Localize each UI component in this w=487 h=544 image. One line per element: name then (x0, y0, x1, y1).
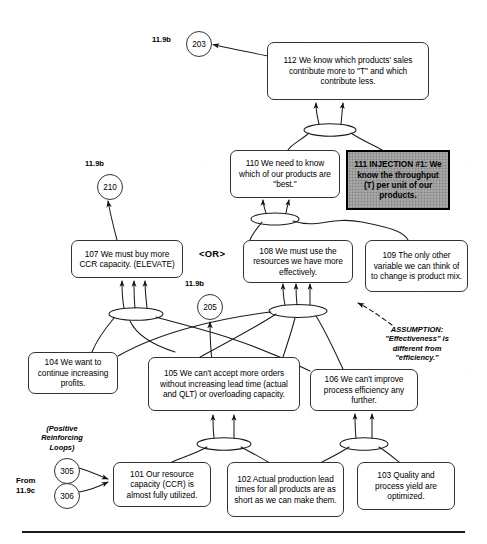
connector-circle-205-label: 205 (203, 303, 217, 312)
entity-110-text: 110 We need to know which of our product… (235, 158, 335, 189)
entity-111-text: 111 INJECTION #1: We know the throughput… (352, 159, 444, 201)
entity-102[interactable]: 102 Actual production lead times for all… (227, 462, 344, 517)
entity-105-text: 105 We can't accept more orders without … (153, 368, 295, 399)
ref-label-210: 11.9b (85, 159, 104, 168)
entity-103-text: 103 Quality and process yield are optimi… (362, 470, 450, 501)
connector-circle-203[interactable]: 203 (186, 31, 212, 57)
connector-circle-203-label: 203 (192, 40, 206, 49)
entity-109-text: 109 The only other variable we can think… (370, 250, 463, 281)
entity-111-injection[interactable]: 111 INJECTION #1: We know the throughput… (346, 150, 450, 210)
diagram-canvas: 112 We know which products' sales contri… (0, 0, 487, 544)
ref-label-203: 11.9b (152, 35, 171, 44)
connector-circle-305[interactable]: 305 (54, 458, 80, 484)
entity-101[interactable]: 101 Our resource capacity (CCR) is almos… (113, 462, 211, 507)
entity-104-text: 104 We want to continue increasing profi… (33, 357, 113, 388)
entity-102-text: 102 Actual production lead times for all… (232, 474, 339, 505)
entity-112-text: 112 We know which products' sales contri… (272, 55, 424, 86)
from-reference-label: From 11.9c (16, 476, 56, 495)
entity-109[interactable]: 109 The only other variable we can think… (365, 240, 468, 292)
entity-108[interactable]: 108 We must use the resources we have mo… (243, 240, 353, 283)
connector-circle-210[interactable]: 210 (97, 174, 123, 200)
entity-105[interactable]: 105 We can't accept more orders without … (148, 357, 300, 411)
connector-circle-306[interactable]: 306 (54, 483, 80, 509)
entity-106-text: 106 We can't improve process efficiency … (315, 374, 413, 405)
connector-circle-305-label: 305 (60, 467, 74, 476)
ref-label-205: 11.9b (185, 279, 204, 288)
entity-107[interactable]: 107 We must buy more CCR capacity. (ELEV… (71, 240, 183, 278)
entity-103[interactable]: 103 Quality and process yield are optimi… (357, 462, 455, 510)
bottom-divider (22, 531, 465, 533)
connector-circle-210-label: 210 (103, 183, 117, 192)
connector-circle-306-label: 306 (60, 492, 74, 501)
or-operator: <OR> (199, 248, 225, 259)
entity-106[interactable]: 106 We can't improve process efficiency … (310, 369, 418, 411)
entity-101-text: 101 Our resource capacity (CCR) is almos… (118, 469, 206, 500)
assumption-note: ASSUMPTION: "Effectiveness" is different… (362, 325, 472, 363)
entity-108-text: 108 We must use the resources we have mo… (248, 246, 348, 277)
entity-110[interactable]: 110 We need to know which of our product… (230, 150, 340, 198)
connector-circle-205[interactable]: 205 (197, 294, 223, 320)
entity-107-text: 107 We must buy more CCR capacity. (ELEV… (76, 249, 178, 270)
positive-reinforcing-loops-note: (Positive Reinforcing Loops) (22, 424, 102, 452)
entity-104[interactable]: 104 We want to continue increasing profi… (28, 352, 118, 394)
entity-112[interactable]: 112 We know which products' sales contri… (267, 42, 429, 100)
